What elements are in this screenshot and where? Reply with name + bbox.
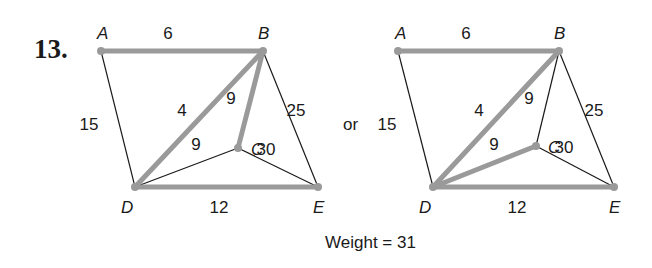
vertex-c (532, 142, 540, 150)
total-weight-label: Weight = 31 (325, 233, 416, 252)
vertex-b (259, 47, 267, 55)
edge-weight-dc: 9 (489, 135, 498, 154)
vertex-e (610, 183, 618, 191)
vertex-label-a: A (394, 24, 406, 43)
edge-dc-in-tree (433, 146, 536, 187)
edge-weight-dc: 9 (191, 135, 200, 154)
edge-weight-de: 12 (508, 198, 527, 217)
edge-weight-ab: 6 (163, 24, 172, 43)
vertex-e (314, 183, 322, 191)
problem-number: 13. (34, 34, 68, 64)
vertex-label-d: D (121, 198, 133, 217)
edge-weight-bd: 4 (177, 101, 186, 120)
vertex-label-a: A (96, 24, 108, 43)
edge-bd-in-tree (433, 51, 559, 187)
vertex-label-e: E (609, 198, 621, 217)
edge-ce (238, 148, 318, 187)
edge-weight-ad: 15 (378, 115, 397, 134)
edge-weight-be: 25 (585, 101, 604, 120)
vertex-b (555, 47, 563, 55)
edge-weight-bc: 9 (524, 89, 533, 108)
edge-weight-be: 25 (287, 101, 306, 120)
edge-weight-ab: 6 (461, 24, 470, 43)
vertex-label-b: B (554, 24, 565, 43)
vertex-c (234, 144, 242, 152)
vertex-a (97, 47, 105, 55)
vertex-label-e: E (313, 198, 325, 217)
vertex-a (394, 47, 402, 55)
edge-weight-bc: 9 (226, 89, 235, 108)
graph-left: 615492593012ABCDE (80, 24, 325, 217)
vertex-label-b: B (258, 24, 269, 43)
vertex-label-c: C (548, 138, 561, 157)
vertex-d (429, 183, 437, 191)
edge-ad (398, 51, 433, 187)
graph-right: 615492593012ABCDE (378, 24, 621, 217)
vertex-label-d: D (419, 198, 431, 217)
edge-weight-bd: 4 (474, 101, 483, 120)
or-connector: or (343, 115, 358, 134)
edge-weight-ad: 15 (80, 115, 99, 134)
vertex-label-c: C (251, 140, 264, 159)
edge-weight-de: 12 (210, 198, 229, 217)
edge-ad (101, 51, 135, 187)
mst-diagram: 13. 615492593012ABCDE or 615492593012ABC… (0, 0, 652, 268)
vertex-d (131, 183, 139, 191)
